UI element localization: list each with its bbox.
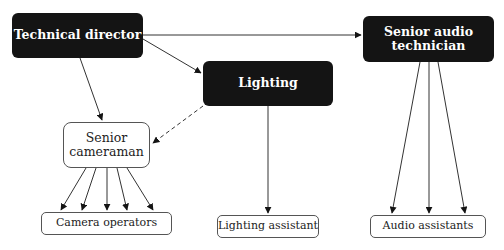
node-senior-audio-technician: Senior audio technician xyxy=(363,16,494,62)
node-label: Audio assistants xyxy=(383,220,474,233)
org-chart-diagram: Technical director Lighting Senior audio… xyxy=(0,0,504,250)
node-technical-director: Technical director xyxy=(12,13,143,58)
node-label: Lighting assistant xyxy=(218,220,318,233)
edge-audio-to-assistants xyxy=(392,62,420,213)
edge-cameraman-to-operators xyxy=(127,168,153,210)
node-lighting-assistant: Lighting assistant xyxy=(217,215,319,238)
node-label: Technical director xyxy=(14,28,142,42)
node-label: Camera operators xyxy=(56,217,157,230)
edge-director-to-cameraman xyxy=(80,58,102,120)
edge-lighting-to-cameraman-dashed xyxy=(153,106,203,143)
edge-director-to-lighting xyxy=(143,39,201,73)
edge-audio-to-assistants xyxy=(438,62,465,213)
node-senior-cameraman: Senior cameraman xyxy=(63,122,150,168)
node-lighting: Lighting xyxy=(203,61,333,106)
edge-cameraman-to-operators xyxy=(82,168,96,210)
node-label-line2: cameraman xyxy=(69,145,144,159)
node-label-line1: Senior xyxy=(86,131,128,145)
node-label: Lighting xyxy=(238,76,298,90)
node-audio-assistants: Audio assistants xyxy=(370,215,486,238)
node-camera-operators: Camera operators xyxy=(41,212,172,235)
node-label-line2: technician xyxy=(392,39,466,53)
edge-cameraman-to-operators xyxy=(117,168,127,210)
node-label-line1: Senior audio xyxy=(384,25,473,39)
edge-cameraman-to-operators xyxy=(61,168,86,210)
